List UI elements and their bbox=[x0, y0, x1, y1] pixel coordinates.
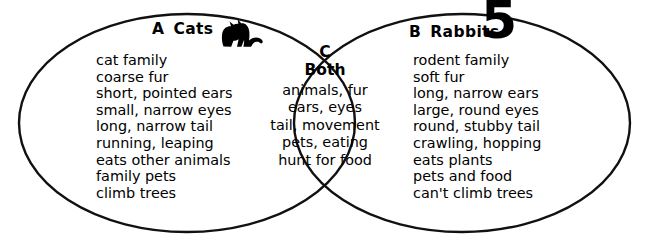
list-item: pets and food bbox=[413, 168, 541, 185]
list-item: crawling, hopping bbox=[413, 135, 541, 152]
center-set-block: C Both animals, fur ears, eyes tail, mov… bbox=[258, 44, 392, 169]
left-set-title: ACats bbox=[152, 22, 213, 38]
list-item: family pets bbox=[96, 168, 232, 185]
cat-silhouette-icon bbox=[218, 17, 264, 47]
list-item: soft fur bbox=[413, 69, 541, 86]
list-item: animals, fur bbox=[258, 82, 392, 99]
list-item: eats other animals bbox=[96, 152, 232, 169]
list-item: long, narrow tail bbox=[96, 118, 232, 135]
center-set-letter: C bbox=[258, 44, 392, 61]
list-item: short, pointed ears bbox=[96, 85, 232, 102]
left-set-label: Cats bbox=[173, 20, 213, 38]
list-item: running, leaping bbox=[96, 135, 232, 152]
center-set-item-list: animals, fur ears, eyes tail, movement p… bbox=[258, 82, 392, 169]
left-set-item-list: cat family coarse fur short, pointed ear… bbox=[96, 52, 232, 201]
list-item: large, round eyes bbox=[413, 102, 541, 119]
list-item: coarse fur bbox=[96, 69, 232, 86]
right-set-letter: B bbox=[409, 23, 421, 41]
list-item: long, narrow ears bbox=[413, 85, 541, 102]
list-item: rodent family bbox=[413, 52, 541, 69]
list-item: tail, movement bbox=[258, 117, 392, 134]
list-item: can't climb trees bbox=[413, 185, 541, 202]
list-item: small, narrow eyes bbox=[96, 102, 232, 119]
list-item: ears, eyes bbox=[258, 99, 392, 116]
list-item: hunt for food bbox=[258, 152, 392, 169]
page-number: 5 bbox=[481, 0, 517, 46]
list-item: round, stubby tail bbox=[413, 118, 541, 135]
venn-diagram-worksheet: ACats cat family coarse fur short, point… bbox=[0, 0, 654, 249]
list-item: eats plants bbox=[413, 152, 541, 169]
list-item: cat family bbox=[96, 52, 232, 69]
list-item: climb trees bbox=[96, 185, 232, 202]
right-set-item-list: rodent family soft fur long, narrow ears… bbox=[413, 52, 541, 201]
center-set-label: Both bbox=[258, 61, 392, 80]
list-item: pets, eating bbox=[258, 134, 392, 151]
left-set-letter: A bbox=[152, 20, 164, 38]
